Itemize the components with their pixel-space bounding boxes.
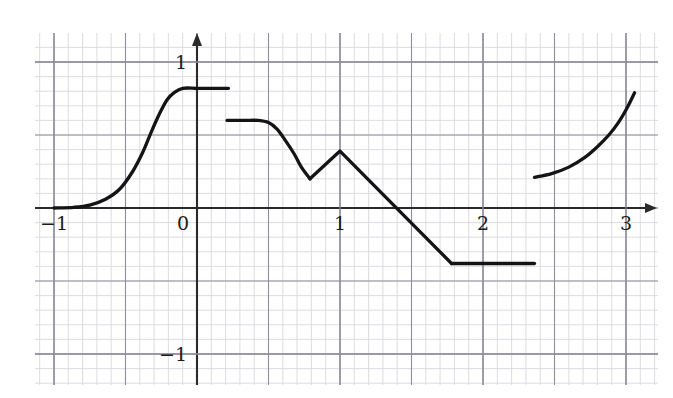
x-tick-label: 0: [177, 212, 189, 234]
x-tick-label: −1: [40, 212, 68, 234]
x-tick-label: 2: [477, 212, 489, 234]
x-tick-label: 1: [334, 212, 346, 234]
y-tick-label: −1: [159, 343, 187, 365]
axes: [35, 33, 658, 385]
x-tick-label: 3: [620, 212, 632, 234]
y-tick-label: 1: [175, 51, 187, 73]
graph-canvas: −10123−11: [0, 0, 673, 398]
graph-figure: −10123−11: [0, 0, 673, 398]
